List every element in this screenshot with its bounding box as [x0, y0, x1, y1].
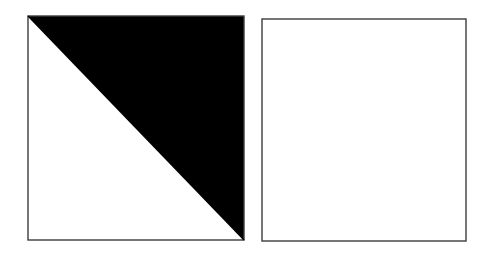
half-filled-square-group [28, 16, 244, 240]
half-filled-square [26, 14, 246, 242]
empty-square [260, 17, 468, 243]
figure-canvas [0, 0, 500, 256]
empty-square-group [262, 19, 466, 241]
square-outline [262, 19, 466, 241]
